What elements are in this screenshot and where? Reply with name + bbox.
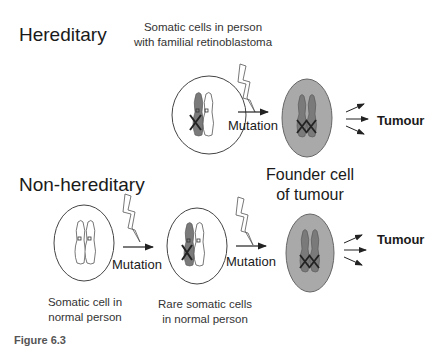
mutation-label: Mutation — [112, 257, 162, 272]
label-line: normal person — [30, 310, 140, 325]
label-line: in normal person — [145, 312, 265, 327]
founder-cell-label: Founder cell of tumour — [255, 165, 365, 205]
hereditary-title: Hereditary — [19, 24, 107, 46]
label-line: Founder cell — [255, 165, 365, 185]
label-line: with familial retinoblastoma — [128, 35, 278, 50]
rare-somatic-cell — [167, 208, 227, 284]
rare-cell-label: Rare somatic cells in normal person — [145, 297, 265, 327]
hereditary-somatic-cell — [172, 76, 246, 154]
lightning-bolt-icon — [236, 197, 253, 245]
lightning-bolt-icon — [123, 194, 140, 242]
normal-cell-label: Somatic cell in normal person — [30, 295, 140, 325]
tumour-founder-cell — [282, 79, 332, 157]
hereditary-cell-label: Somatic cells in person with familial re… — [128, 20, 278, 50]
tumour-founder-cell — [286, 214, 334, 292]
mutation-label: Mutation — [228, 118, 278, 133]
normal-chromosome-icon — [203, 93, 214, 137]
mutation-label: Mutation — [226, 254, 276, 269]
label-line: of tumour — [255, 185, 365, 205]
tumour-label: Tumour — [377, 232, 424, 247]
mutant-chromosome-icon — [193, 93, 204, 137]
label-line: Somatic cell in — [30, 295, 140, 310]
normal-somatic-cell — [54, 205, 114, 281]
label-line: Somatic cells in person — [128, 20, 278, 35]
label-line: Rare somatic cells — [145, 297, 265, 312]
tumour-label: Tumour — [377, 113, 424, 128]
figure-caption: Figure 6.3 — [14, 334, 66, 346]
non-hereditary-title: Non-hereditary — [19, 174, 145, 196]
